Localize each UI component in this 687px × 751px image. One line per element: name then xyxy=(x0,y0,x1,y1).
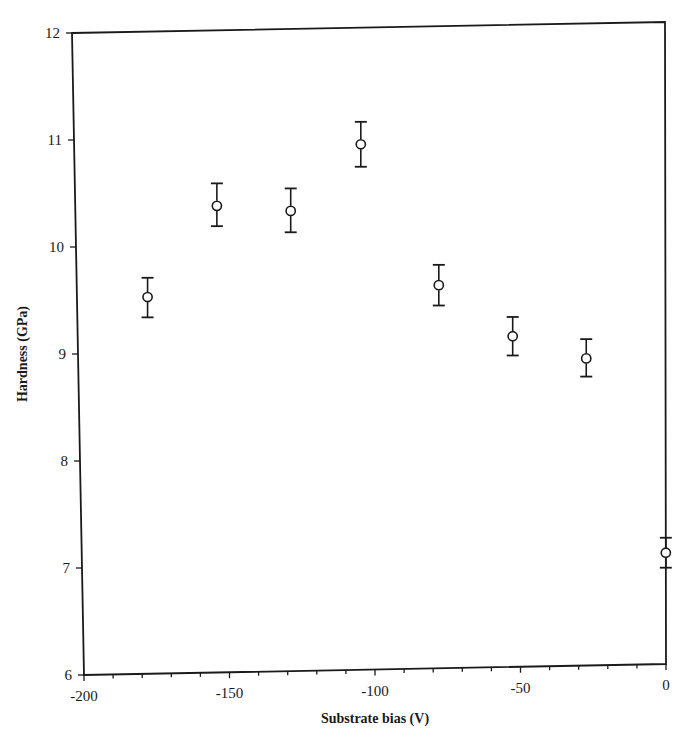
y-tick-label: 10 xyxy=(49,239,64,255)
x-tick-label: 0 xyxy=(662,677,670,693)
y-tick-label: 11 xyxy=(48,132,62,148)
open-circle-marker xyxy=(582,354,591,363)
y-tick-label: 7 xyxy=(63,560,71,576)
x-tick-label: -100 xyxy=(361,683,389,699)
data-point xyxy=(355,122,367,167)
x-tick-label: -50 xyxy=(511,680,531,696)
y-tick-label: 6 xyxy=(65,667,73,683)
data-point xyxy=(433,265,445,306)
x-axis-title: Substrate bias (V) xyxy=(321,711,429,727)
plot-frame xyxy=(72,22,666,675)
open-circle-marker xyxy=(434,281,443,290)
hardness-vs-bias-chart: -200-150-100-500 6789101112 Substrate bi… xyxy=(0,0,687,751)
data-point xyxy=(142,278,154,318)
x-tick-label: -150 xyxy=(216,685,244,701)
data-point xyxy=(580,339,592,376)
y-tick-label: 8 xyxy=(61,453,69,469)
data-point xyxy=(507,317,519,356)
y-axis-title: Hardness (GPa) xyxy=(15,306,31,402)
data-point xyxy=(660,538,672,568)
y-tick-label: 9 xyxy=(59,346,67,362)
x-tick-label: -200 xyxy=(70,688,98,704)
plot-border xyxy=(72,22,666,675)
open-circle-marker xyxy=(286,206,295,215)
data-point xyxy=(211,183,223,226)
data-point xyxy=(285,188,297,232)
open-circle-marker xyxy=(661,548,670,557)
data-points xyxy=(142,122,672,568)
y-tick-label: 12 xyxy=(45,25,60,41)
open-circle-marker xyxy=(143,292,152,301)
open-circle-marker xyxy=(508,332,517,341)
open-circle-marker xyxy=(212,201,221,210)
open-circle-marker xyxy=(356,140,365,149)
